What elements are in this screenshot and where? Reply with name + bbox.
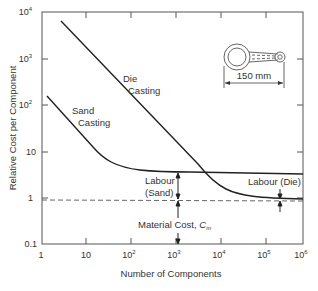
cost-vs-quantity-chart: 1 10 102 103 104 105 106 0.1 1 10 102 10… [0,0,318,291]
svg-text:103: 103 [19,53,33,64]
labour-sand-label: Labour(Sand) [145,175,175,198]
x-axis-title: Number of Components [121,268,222,279]
svg-text:0.1: 0.1 [24,239,37,249]
svg-text:1: 1 [28,193,33,203]
plot-frame [42,12,303,244]
svg-text:104: 104 [19,6,33,17]
sand-casting-label: SandCasting [72,105,110,128]
svg-text:104: 104 [212,249,226,260]
svg-text:105: 105 [257,249,271,260]
svg-text:10: 10 [26,147,36,157]
connecting-rod-icon [224,44,285,88]
y-axis-title: Relative Cost per Component [7,65,18,190]
svg-text:106: 106 [294,249,308,260]
svg-text:103: 103 [167,249,181,260]
svg-text:102: 102 [122,249,136,260]
x-axis-ticks [86,12,266,244]
labour-die-label: Labour (Die) [248,176,301,187]
material-cost-label: Material Cost, Cm [138,219,211,231]
die-casting-label: DieCasting [123,73,160,96]
labour-sand-arrow [176,173,180,199]
material-cost-dashed-line [42,200,303,201]
svg-text:102: 102 [19,99,33,110]
y-tick-labels: 0.1 1 10 102 103 104 [19,6,37,249]
svg-text:1: 1 [38,250,43,260]
svg-text:10: 10 [81,250,91,260]
x-tick-labels: 1 10 102 103 104 105 106 [38,249,308,260]
dimension-label: 150 mm [237,70,271,81]
